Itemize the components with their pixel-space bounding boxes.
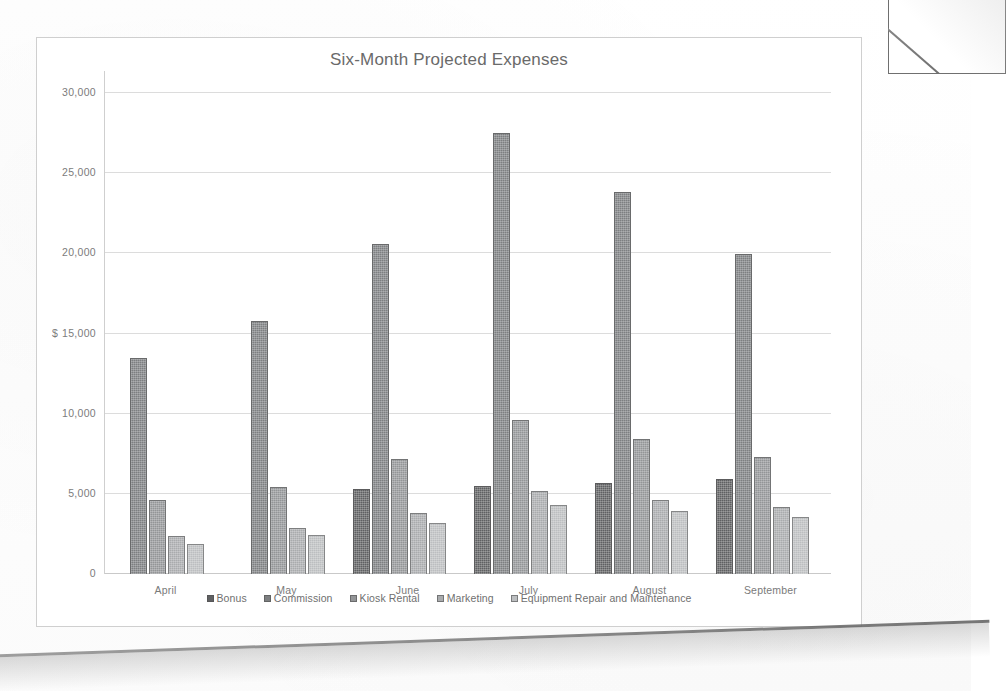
bar[interactable] xyxy=(410,513,427,574)
bar[interactable] xyxy=(792,517,809,574)
plot-area: 05,00010,000$15,00020,00025,00030,000 Ap… xyxy=(105,93,831,574)
bar[interactable] xyxy=(251,321,268,574)
legend-item[interactable]: Marketing xyxy=(437,592,494,604)
legend-item[interactable]: Bonus xyxy=(207,592,247,604)
bar[interactable] xyxy=(614,192,631,574)
corner-fold-shading xyxy=(888,0,1006,74)
legend-item[interactable]: Kiosk Rental xyxy=(350,592,420,604)
y-axis-tick-value: 15,000 xyxy=(62,327,96,339)
bar-group: July xyxy=(468,93,589,574)
legend-item-label: Bonus xyxy=(217,592,247,604)
bar[interactable] xyxy=(633,439,650,574)
y-axis-tick-label: 5,000 xyxy=(68,487,96,499)
legend-item-label: Commission xyxy=(274,592,333,604)
y-axis-tick-label: 20,000 xyxy=(62,246,96,258)
bar[interactable] xyxy=(270,487,287,574)
bar[interactable] xyxy=(550,505,567,574)
y-axis-tick-label: 10,000 xyxy=(62,407,96,419)
chart-frame: Six-Month Projected Expenses 05,00010,00… xyxy=(36,37,862,627)
bar-group: September xyxy=(710,93,831,574)
bar-group: August xyxy=(589,93,710,574)
legend-swatch-icon xyxy=(350,595,357,602)
bar[interactable] xyxy=(130,358,147,574)
bar[interactable] xyxy=(595,483,612,574)
bar[interactable] xyxy=(168,536,185,574)
bar[interactable] xyxy=(735,254,752,574)
bar-groups: AprilMayJuneJulyAugustSeptember xyxy=(105,93,831,574)
bar[interactable] xyxy=(391,459,408,574)
chart-title: Six-Month Projected Expenses xyxy=(37,50,861,70)
bar[interactable] xyxy=(512,420,529,574)
y-axis-tick-label: 25,000 xyxy=(62,166,96,178)
bar[interactable] xyxy=(289,528,306,574)
bar[interactable] xyxy=(716,479,733,574)
bar-group: May xyxy=(226,93,347,574)
bars xyxy=(589,93,710,574)
bar[interactable] xyxy=(149,500,166,574)
bars xyxy=(105,93,226,574)
legend-swatch-icon xyxy=(207,595,214,602)
bar[interactable] xyxy=(671,511,688,574)
bar[interactable] xyxy=(754,457,771,574)
bar[interactable] xyxy=(773,507,790,574)
bar[interactable] xyxy=(531,491,548,574)
legend-swatch-icon xyxy=(511,595,518,602)
bars xyxy=(347,93,468,574)
legend-item[interactable]: Commission xyxy=(264,592,333,604)
bar[interactable] xyxy=(187,544,204,574)
legend-swatch-icon xyxy=(437,595,444,602)
bar[interactable] xyxy=(372,244,389,574)
currency-symbol: $ xyxy=(52,327,58,339)
bar[interactable] xyxy=(474,486,491,574)
bars xyxy=(468,93,589,574)
bars xyxy=(226,93,347,574)
legend-swatch-icon xyxy=(264,595,271,602)
bar-group: April xyxy=(105,93,226,574)
legend-item-label: Kiosk Rental xyxy=(360,592,420,604)
legend-item[interactable]: Equipment Repair and Maintenance xyxy=(511,592,692,604)
chart-legend: BonusCommissionKiosk RentalMarketingEqui… xyxy=(37,592,861,604)
y-axis-tick-label: $15,000 xyxy=(52,327,96,339)
bar[interactable] xyxy=(652,500,669,574)
bar[interactable] xyxy=(308,535,325,574)
bars xyxy=(710,93,831,574)
legend-item-label: Equipment Repair and Maintenance xyxy=(521,592,692,604)
y-axis-tick-label: 0 xyxy=(90,567,96,579)
bar-group: June xyxy=(347,93,468,574)
bar[interactable] xyxy=(493,133,510,574)
y-axis-tick-label: 30,000 xyxy=(62,86,96,98)
bar[interactable] xyxy=(353,489,370,574)
legend-item-label: Marketing xyxy=(447,592,494,604)
bar[interactable] xyxy=(429,523,446,574)
page-bottom-shadow xyxy=(0,623,990,691)
